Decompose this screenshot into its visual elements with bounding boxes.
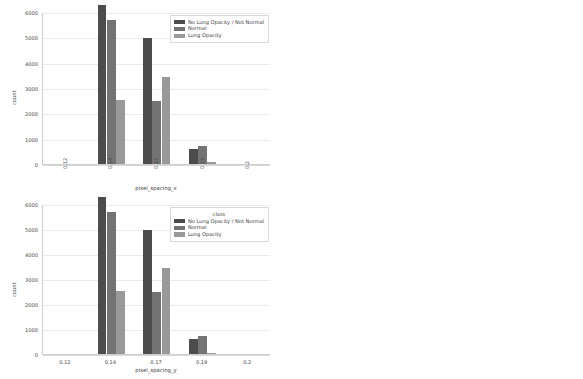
bar xyxy=(98,197,107,354)
chart-panel-top-left: 0100020003000400050006000 0.120.140.170.… xyxy=(0,0,291,190)
legend-label: Lung Opacity xyxy=(188,33,222,38)
y-tick-label: 3000 xyxy=(25,86,38,92)
bar xyxy=(162,77,171,164)
bar xyxy=(152,292,161,354)
bar xyxy=(207,353,216,355)
y-tick-label: 0 xyxy=(35,162,38,168)
y-tick-label: 2000 xyxy=(25,302,38,308)
legend-title: class xyxy=(174,211,264,217)
legend-item[interactable]: Lung Opacity xyxy=(174,33,264,39)
chart-panel-bottom-right: 020004000600080001000012000 0.120.140.17… xyxy=(291,190,583,379)
bar xyxy=(116,291,125,354)
y-tick-label: 0 xyxy=(35,352,38,358)
x-tick-label: 0.14 xyxy=(108,158,114,169)
legend-top-left: No Lung Opacity / Not NormalNormalLung O… xyxy=(170,15,269,43)
legend-swatch-icon xyxy=(174,34,185,38)
y-axis-label-bottom-left: count xyxy=(11,282,17,297)
y-axis-label-top-left: count xyxy=(11,90,17,105)
x-tick-label: 0.17 xyxy=(150,359,161,365)
y-tick-label: 4000 xyxy=(25,61,38,67)
legend-label: No Lung Opacity / Not Normal xyxy=(188,219,264,224)
legend-item[interactable]: Normal xyxy=(174,26,264,32)
legend-item[interactable]: Normal xyxy=(174,225,264,231)
y-tick-label: 3000 xyxy=(25,277,38,283)
legend-label: No Lung Opacity / Not Normal xyxy=(188,20,264,25)
legend-swatch-icon xyxy=(174,20,185,24)
bar xyxy=(143,230,152,354)
legend-swatch-icon xyxy=(174,226,185,230)
y-tick-label: 6000 xyxy=(25,10,38,16)
bar xyxy=(143,38,152,164)
chart-panel-bottom-left: 0100020003000400050006000 0.120.140.170.… xyxy=(0,190,291,379)
bar xyxy=(152,101,161,164)
y-tick-label: 1000 xyxy=(25,327,38,333)
legend-bottom-left: classNo Lung Opacity / Not NormalNormalL… xyxy=(170,207,269,242)
legend-swatch-icon xyxy=(174,219,185,223)
x-tick-label: 0.14 xyxy=(105,359,116,365)
legend-label: Lung Opacity xyxy=(188,232,222,237)
x-tick-label: 0.12 xyxy=(59,359,70,365)
x-tick-label: 0.2 xyxy=(245,161,251,169)
plot-area-bottom-left: 0100020003000400050006000 0.120.140.170.… xyxy=(42,205,270,355)
legend-item[interactable]: No Lung Opacity / Not Normal xyxy=(174,218,264,224)
x-tick-label: 0.17 xyxy=(153,158,159,169)
x-tick-label: 0.12 xyxy=(62,158,68,169)
bar xyxy=(98,5,107,164)
bar xyxy=(116,100,125,164)
plot-area-top-left: 0100020003000400050006000 0.120.140.170.… xyxy=(42,13,270,165)
figure-canvas: 0100020003000400050006000 0.120.140.170.… xyxy=(0,0,583,379)
legend-label: Normal xyxy=(188,26,206,31)
x-axis-label-bottom-left: pixel_spacing_y xyxy=(135,367,176,373)
y-tick-label: 4000 xyxy=(25,252,38,258)
legend-item[interactable]: No Lung Opacity / Not Normal xyxy=(174,19,264,25)
legend-swatch-icon xyxy=(174,232,185,236)
x-tick-label: 0.2 xyxy=(243,359,251,365)
bar xyxy=(107,20,116,164)
y-tick-label: 5000 xyxy=(25,35,38,41)
legend-label: Normal xyxy=(188,225,206,230)
bar xyxy=(198,336,207,354)
y-tick-label: 6000 xyxy=(25,202,38,208)
bar xyxy=(107,212,116,355)
legend-item[interactable]: Lung Opacity xyxy=(174,232,264,238)
legend-swatch-icon xyxy=(174,27,185,31)
x-tick-label: 0.19 xyxy=(196,359,207,365)
y-tick-label: 1000 xyxy=(25,137,38,143)
bar xyxy=(207,162,216,164)
x-tick-label: 0.19 xyxy=(199,158,205,169)
y-tick-label: 5000 xyxy=(25,227,38,233)
bar xyxy=(189,339,198,354)
chart-panel-top-right: 020004000600080001000012000 0.120.140.17… xyxy=(291,0,583,190)
bar xyxy=(189,149,198,164)
y-tick-label: 2000 xyxy=(25,111,38,117)
gridline xyxy=(43,355,270,356)
bar xyxy=(162,268,171,354)
